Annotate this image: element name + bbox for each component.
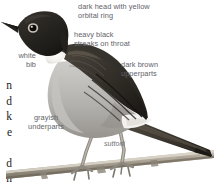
label-white-bib: white bib	[2, 52, 36, 69]
label-dark-head-orbital-ring: dark head with yellow orbital ring	[78, 3, 150, 20]
figure-panel: n d k e d h e	[0, 0, 216, 185]
bird-illustration	[0, 0, 216, 185]
eye-with-orbital-ring	[28, 23, 38, 33]
label-dark-brown-upperparts: dark brown upperparts	[121, 61, 158, 78]
head	[18, 11, 68, 56]
label-subspecies-suttoni: suttoni	[104, 140, 125, 149]
bill	[1, 22, 19, 33]
label-heavy-black-streaks-on-throat: heavy black streaks on throat	[74, 31, 130, 48]
label-grayish-underparts: grayish underparts	[18, 114, 74, 131]
branch	[6, 150, 214, 179]
